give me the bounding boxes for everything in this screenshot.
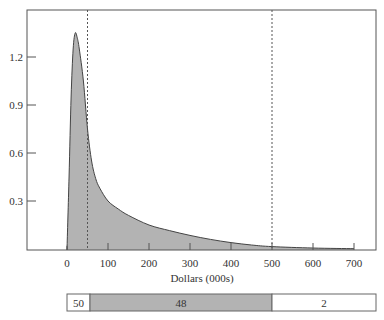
x-axis-title: Dollars (000s) <box>170 272 234 285</box>
density-area <box>67 33 354 250</box>
y-tick-label: 0.3 <box>9 195 23 207</box>
x-tick-label: 200 <box>141 257 158 269</box>
x-tick-label: 700 <box>346 257 363 269</box>
x-tick-label: 0 <box>64 257 70 269</box>
y-tick-label: 0.6 <box>9 147 23 159</box>
y-tick-label: 0.9 <box>9 99 23 111</box>
segment-label: 2 <box>321 297 327 309</box>
percentage-segment-bar: 50482 <box>67 294 376 311</box>
y-axis: 0.30.60.91.2 <box>9 51 36 207</box>
x-tick-label: 600 <box>305 257 322 269</box>
density-fill <box>67 33 354 250</box>
density-chart: 0.30.60.91.2 0100200300400500600700 Doll… <box>0 0 384 320</box>
x-tick-label: 100 <box>100 257 117 269</box>
segment-label: 50 <box>73 297 85 309</box>
x-tick-label: 300 <box>182 257 199 269</box>
x-tick-label: 500 <box>264 257 281 269</box>
y-tick-label: 1.2 <box>9 51 23 63</box>
x-tick-label: 400 <box>223 257 240 269</box>
segment-label: 48 <box>176 297 188 309</box>
